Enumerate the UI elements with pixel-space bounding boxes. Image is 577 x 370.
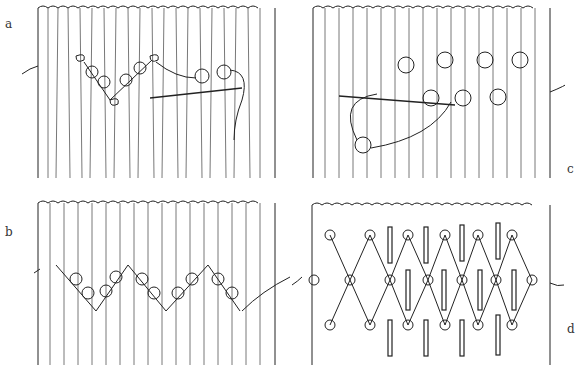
panel-c-illustration [295, 0, 565, 182]
panel-d-illustration [290, 195, 565, 370]
panel-label-a: a [5, 17, 12, 31]
panel-label-c: c [567, 162, 574, 176]
panel-label-b: b [5, 225, 13, 239]
panel-label-d: d [567, 322, 575, 336]
panel-a-illustration [20, 0, 285, 182]
panel-b-illustration [20, 195, 295, 370]
